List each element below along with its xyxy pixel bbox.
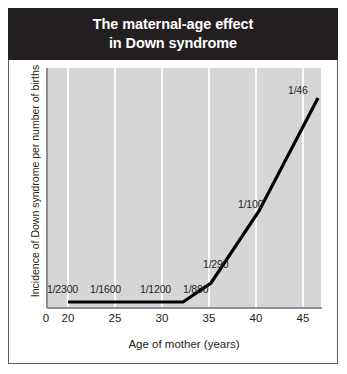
- x-axis-title: Age of mother (years): [47, 338, 321, 350]
- x-axis-origin-label: 0: [43, 312, 49, 324]
- chart-title-line-first: The maternal-age effect: [93, 15, 253, 34]
- x-tick-label-35: 35: [203, 312, 216, 324]
- chart-title-banner: The maternal-age effect in Down syndrome…: [8, 8, 338, 60]
- figure-container: The maternal-age effect in Down syndrome…: [0, 0, 347, 374]
- incidence-polyline: [68, 98, 318, 302]
- x-tick-label-25: 25: [109, 312, 122, 324]
- x-tick-label-45: 45: [297, 312, 310, 324]
- point-label-1-880: 1/880: [183, 283, 208, 295]
- y-axis-title: Incidence of Down syndrome per number of…: [29, 61, 41, 301]
- point-label-1-2300: 1/2300: [47, 283, 78, 295]
- point-label-1-46: 1/46: [288, 84, 308, 96]
- point-label-1-1200: 1/1200: [140, 283, 171, 295]
- point-label-1-1600: 1/1600: [90, 283, 121, 295]
- point-label-1-290: 1/290: [203, 258, 228, 270]
- data-series-line: [47, 68, 321, 307]
- point-label-1-100: 1/100: [238, 198, 263, 210]
- x-tick-label-30: 30: [156, 312, 169, 324]
- x-tick-label-40: 40: [250, 312, 263, 324]
- x-tick-label-20: 20: [62, 312, 75, 324]
- chart-title-line-second: in Down syndrome: [109, 34, 237, 53]
- x-axis-line: [47, 307, 322, 309]
